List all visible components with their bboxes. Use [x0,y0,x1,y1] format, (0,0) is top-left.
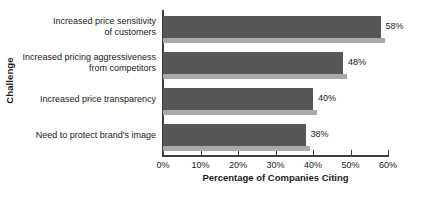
category-label: Increased pricing aggressiveness from co… [18,52,156,74]
x-axis-tick-mark [351,150,352,156]
x-axis-tick-label: 40% [304,160,322,170]
bar-chart: Challenge Increased price sensitivity of… [0,0,428,202]
plot-area: 0%10%20%30%40%50%60%58%48%40%38% [163,10,388,155]
x-axis-tick-mark [313,150,314,156]
bar[interactable] [163,16,381,38]
bar-shadow [163,146,310,151]
bar[interactable] [163,88,313,110]
category-label-column: Increased price sensitivity of customers… [18,10,160,155]
bar[interactable] [163,124,306,146]
bar-value-label: 58% [386,21,404,31]
bar-group[interactable]: 38% [163,124,312,151]
x-axis-tick-label: 60% [379,160,397,170]
y-axis-title: Challenge [0,0,18,160]
bar-shadow [163,74,347,79]
x-axis-tick-label: 20% [229,160,247,170]
x-axis-tick-mark [388,150,389,156]
bar[interactable] [163,52,343,74]
bar-value-label: 48% [348,57,366,67]
bar-value-label: 40% [318,93,336,103]
bar-shadow [163,38,385,43]
category-label: Increased price transparency [18,94,156,105]
bar-group[interactable]: 40% [163,88,319,115]
y-axis-title-label: Challenge [4,57,15,103]
x-axis-tick-label: 30% [266,160,284,170]
bar-group[interactable]: 48% [163,52,349,79]
x-axis-tick-label: 10% [191,160,209,170]
category-label: Need to protect brand's image [18,130,156,141]
x-axis-title: Percentage of Companies Citing [163,172,388,183]
x-axis-tick-label: 50% [341,160,359,170]
bar-value-label: 38% [311,129,329,139]
bar-group[interactable]: 58% [163,16,387,43]
x-axis-tick-label: 0% [156,160,169,170]
category-label: Increased price sensitivity of customers [18,16,156,38]
bar-shadow [163,110,317,115]
